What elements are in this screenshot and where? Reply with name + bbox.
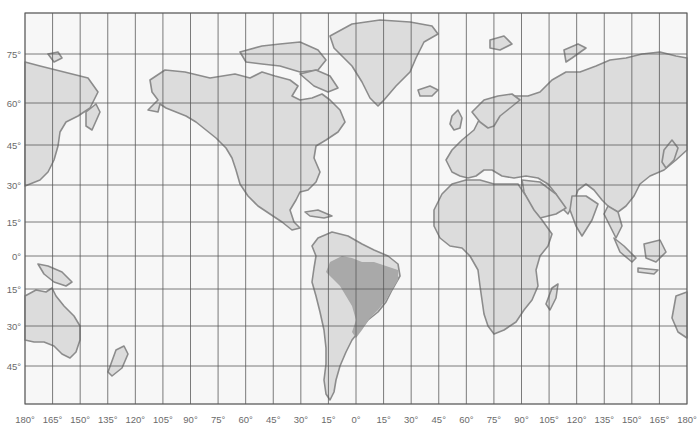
longitude-label: 45° [432,414,447,425]
longitude-label: 60° [459,414,474,425]
longitude-label: 15° [321,414,336,425]
latitude-label: 0° [12,251,21,262]
longitude-label: 120° [126,414,146,425]
latitude-label: 45° [7,140,22,151]
longitude-label: 165° [650,414,670,425]
latitude-label: 45° [7,361,22,372]
latitude-label: 15° [7,284,22,295]
longitude-label: 180° [15,414,35,425]
longitude-label: 45° [266,414,281,425]
longitude-label: 30° [404,414,419,425]
longitude-label: 150° [622,414,642,425]
longitude-label: 150° [70,414,90,425]
longitude-label: 165° [43,414,63,425]
longitude-label: 90° [514,414,529,425]
latitude-label: 60° [7,98,22,109]
latitude-labels: 75°60°45°30°15°0°15°30°45° [7,49,22,372]
latitude-label: 15° [7,217,22,228]
latitude-label: 75° [7,49,22,60]
longitude-labels: 180°165°150°135°120°105°90°75°60°45°30°1… [15,414,697,425]
longitude-label: 90° [183,414,198,425]
longitude-label: 75° [487,414,502,425]
longitude-label: 0° [351,414,360,425]
longitude-label: 120° [567,414,587,425]
latitude-label: 30° [7,321,22,332]
longitude-label: 135° [98,414,118,425]
world-map: 180°165°150°135°120°105°90°75°60°45°30°1… [0,0,699,429]
latitude-label: 30° [7,180,22,191]
longitude-label: 135° [594,414,614,425]
java [638,268,658,274]
longitude-label: 30° [294,414,309,425]
longitude-label: 60° [238,414,253,425]
longitude-label: 180° [677,414,697,425]
longitude-label: 75° [211,414,226,425]
longitude-label: 15° [376,414,391,425]
longitude-label: 105° [153,414,173,425]
longitude-label: 105° [539,414,559,425]
